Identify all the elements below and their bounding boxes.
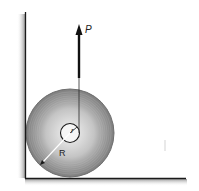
- wall-shadow: [17, 14, 25, 178]
- floor-shadow: [25, 179, 187, 186]
- spool-diagram: r R P: [0, 0, 199, 191]
- inner-radius-label: r: [71, 126, 74, 135]
- outer-radius-label: R: [59, 148, 66, 158]
- force-label: P: [85, 24, 92, 35]
- force-arrowhead-icon: [76, 24, 83, 35]
